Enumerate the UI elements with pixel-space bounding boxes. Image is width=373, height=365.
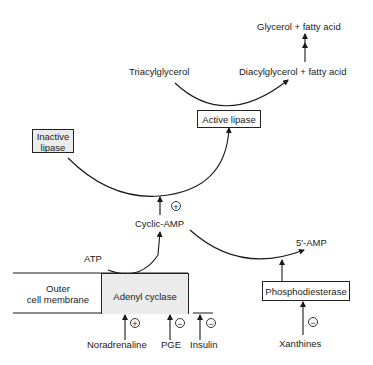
adenyl-cyclase-label: Adenyl cyclase (113, 291, 176, 302)
pge-minus-sign-icon: − (175, 318, 185, 328)
label-atp: ATP (84, 253, 102, 264)
camp-plus-sign-icon: + (171, 201, 181, 211)
xanthines-minus-sign-icon: − (308, 317, 318, 327)
arrow-triacyl-to-diacyl (175, 80, 288, 106)
inactive-lipase-label-line1: Inactive (33, 131, 73, 142)
label-cyclic-amp: Cyclic-AMP (135, 218, 184, 229)
insulin-minus-sign-icon: − (206, 318, 216, 328)
label-outer-cell-membrane: Outer cell membrane (18, 283, 98, 305)
inactive-lipase-box: Inactive lipase (32, 129, 74, 153)
active-lipase-box: Active lipase (197, 110, 261, 128)
label-glycerol-fatty-acid: Glycerol + fatty acid (257, 21, 341, 32)
inactive-lipase-label-line2: lipase (33, 142, 73, 153)
arrow-atp-to-camp (108, 232, 160, 274)
outer-membrane-line1: Outer (18, 283, 98, 294)
phosphodiesterase-label: Phosphodiesterase (265, 286, 346, 297)
adenyl-cyclase-box: Adenyl cyclase (101, 273, 189, 314)
active-lipase-label: Active lipase (202, 114, 255, 125)
arrow-diacylglycerol-to-glycerol (302, 34, 308, 62)
label-diacylglycerol-fatty-acid: Diacylglycerol + fatty acid (239, 66, 346, 77)
label-noradrenaline: Noradrenaline (87, 339, 147, 350)
outer-membrane-line2: cell membrane (18, 294, 98, 305)
label-pge: PGE (161, 339, 181, 350)
phosphodiesterase-box: Phosphodiesterase (262, 281, 350, 301)
label-insulin: Insulin (190, 339, 217, 350)
label-5-amp: 5'-AMP (296, 237, 327, 248)
label-xanthines: Xanthines (279, 338, 321, 349)
arrow-camp-to-5amp (190, 230, 304, 259)
noradrenaline-plus-sign-icon: + (130, 318, 140, 328)
label-triacylglycerol: Triacylglycerol (129, 66, 189, 77)
arrow-inactive-to-active-lipase (68, 128, 229, 196)
